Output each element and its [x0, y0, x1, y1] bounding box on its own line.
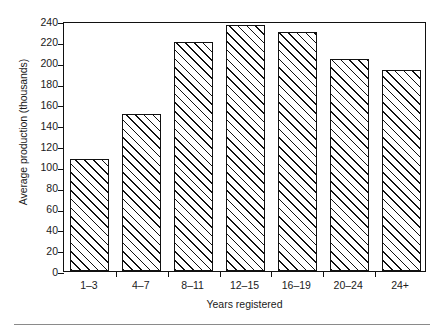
x-axis-tick-mark [168, 271, 169, 277]
y-axis-tick-label: 220 [30, 37, 58, 48]
bar [122, 114, 161, 271]
x-axis-tick-label: 16–19 [270, 279, 322, 292]
y-axis-tick-label: 180 [30, 79, 58, 90]
bar [330, 59, 369, 272]
x-axis-tick-label: 4–7 [115, 279, 167, 292]
y-axis-tick-label: 200 [30, 58, 58, 69]
bar-series-group [64, 23, 425, 271]
x-axis-tick-label: 12–15 [219, 279, 271, 292]
bar [226, 25, 265, 271]
y-axis-tick-mark [58, 273, 64, 274]
y-axis-tick-label: 100 [30, 162, 58, 173]
x-axis-tick-mark [116, 271, 117, 277]
x-axis-tick-mark [323, 271, 324, 277]
y-axis-tick-label: 0 [30, 267, 58, 278]
y-axis-tick-label: 60 [30, 204, 58, 215]
bar [382, 70, 421, 271]
y-axis-tick-label: 160 [30, 100, 58, 111]
x-axis-tick-mark [271, 271, 272, 277]
bar-chart-figure: Average production (thousands) 020406080… [0, 0, 443, 336]
x-axis-tick-label: 8–11 [167, 279, 219, 292]
x-axis-tick-mark [220, 271, 221, 277]
y-axis-tick-label: 140 [30, 121, 58, 132]
x-axis-tick-mark [375, 271, 376, 277]
y-axis-tick-label-group: 020406080100120140160180200220240 [30, 16, 58, 278]
x-axis-tick-label: 1–3 [63, 279, 115, 292]
bar [174, 42, 213, 271]
x-axis-title: Years registered [63, 298, 426, 311]
footer-rule [14, 324, 430, 325]
bar [278, 32, 317, 271]
y-axis-tick-label: 20 [30, 246, 58, 257]
y-axis-tick-label: 40 [30, 225, 58, 236]
y-axis-tick-label: 80 [30, 183, 58, 194]
plot-area [63, 22, 426, 272]
bar [70, 159, 109, 272]
x-axis-tick-label: 20–24 [322, 279, 374, 292]
x-axis-tick-label-group: 1–34–78–1112–1516–1920–2424+ [63, 279, 426, 293]
y-axis-tick-label: 120 [30, 142, 58, 153]
y-axis-tick-label: 240 [30, 17, 58, 28]
x-axis-tick-label: 24+ [374, 279, 426, 292]
